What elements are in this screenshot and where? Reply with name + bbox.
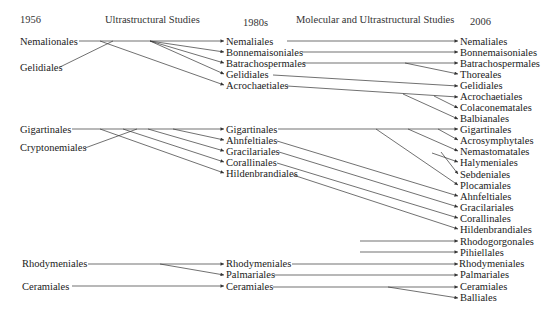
taxon-1956-ceramiales: Ceramiales: [22, 281, 69, 293]
taxon-1980s-ceramiales: Ceramiales: [226, 281, 273, 293]
taxon-2006-balliales: Balliales: [460, 292, 497, 304]
taxon-1956-gigartinales: Gigartinales: [20, 124, 71, 136]
taxon-1956-cryptonemiales: Cryptonemiales: [20, 142, 87, 154]
red-algae-classification-diagram: 1956 Ultrastructural Studies 1980s Molec…: [0, 0, 556, 313]
taxon-2006-palmariales: Palmariales: [460, 269, 509, 281]
taxon-2006-halymeniales: Halymeniales: [460, 157, 518, 169]
taxon-2006-hildenbrandiales: Hildenbrandiales: [460, 224, 532, 236]
taxon-1956-gelidiales: Gelidiales: [20, 62, 63, 74]
taxon-1956-rhodymeniales: Rhodymeniales: [22, 258, 87, 270]
taxon-1980s-acrochaetiales: Acrochaetiales: [226, 80, 288, 92]
taxon-1980s-hildenbrandiales: Hildenbrandiales: [226, 168, 298, 180]
taxon-1956-nemalionales: Nemalionales: [20, 36, 78, 48]
taxon-1980s-palmariales: Palmariales: [226, 269, 275, 281]
